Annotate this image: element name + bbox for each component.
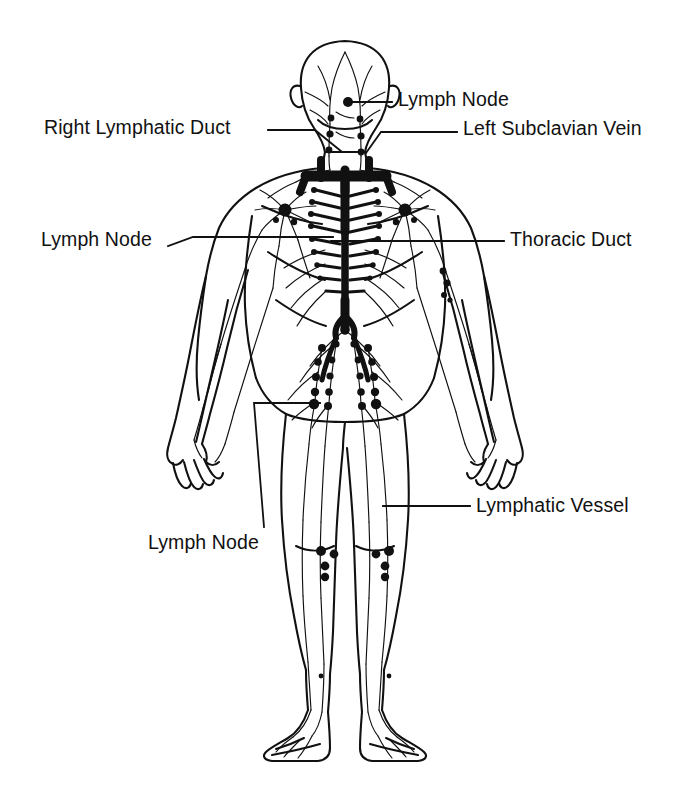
label-right-lymphatic-duct: Right Lymphatic Duct — [44, 118, 231, 138]
label-lymph-node-neck: Lymph Node — [398, 90, 509, 110]
label-lymphatic-vessel: Lymphatic Vessel — [476, 496, 629, 516]
label-thoracic-duct: Thoracic Duct — [510, 230, 632, 250]
body-outline — [167, 41, 523, 761]
leader-left-subclavian-vein — [366, 132, 457, 153]
label-left-subclavian-vein: Left Subclavian Vein — [463, 119, 642, 139]
lymphatic-system-figure: Lymph Node Right Lymphatic Duct Left Sub… — [0, 0, 690, 797]
label-lymph-node-axillary: Lymph Node — [41, 230, 152, 250]
label-lymph-node-inguinal: Lymph Node — [148, 533, 259, 553]
leader-lymph-node-inguinal — [254, 403, 320, 527]
lymphatic-vessel-network — [194, 52, 496, 758]
leader-lymph-node-axillary — [168, 237, 333, 246]
